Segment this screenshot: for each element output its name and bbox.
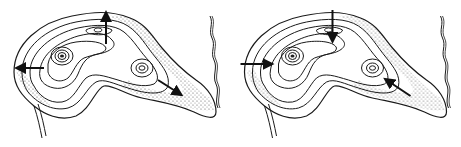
panel-left-outward	[0, 0, 230, 147]
diagram	[0, 0, 461, 147]
panel-right-inward	[230, 0, 460, 147]
